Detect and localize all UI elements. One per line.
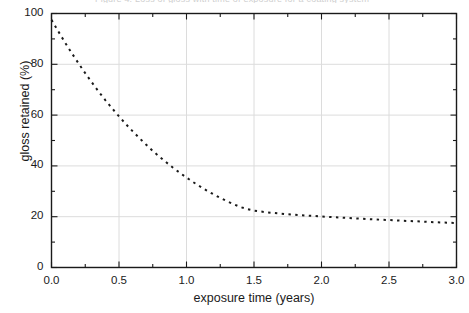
y-tick-label: 80 — [14, 57, 44, 69]
x-tick-label: 0.0 — [32, 274, 72, 286]
x-tick-label: 1.5 — [234, 274, 274, 286]
y-tick-label: 40 — [14, 158, 44, 170]
x-tick-label: 2.0 — [302, 274, 342, 286]
x-tick-label: 0.5 — [99, 274, 139, 286]
x-tick-label: 1.0 — [167, 274, 207, 286]
chart-figure: Figure 4. Loss of gloss with time of exp… — [0, 0, 469, 313]
y-tick-label: 0 — [14, 260, 44, 272]
x-tick-label: 2.5 — [369, 274, 409, 286]
plot-canvas — [0, 0, 469, 313]
y-tick-label: 20 — [14, 209, 44, 221]
x-axis-label: exposure time (years) — [51, 291, 457, 305]
grid-lines — [52, 14, 457, 268]
x-tick-label: 3.0 — [437, 274, 469, 286]
y-tick-label: 60 — [14, 108, 44, 120]
y-tick-label: 100 — [14, 6, 44, 18]
